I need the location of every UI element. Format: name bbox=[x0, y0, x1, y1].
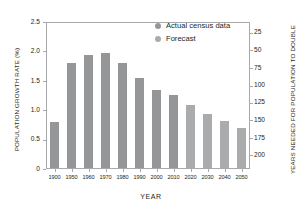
y-tick-right bbox=[250, 33, 253, 34]
y-tick-label-right: 25 bbox=[254, 29, 280, 36]
axis-frame-right bbox=[249, 22, 250, 169]
bar-2030 bbox=[203, 114, 213, 168]
y-tick-left bbox=[43, 169, 46, 170]
legend-label: Forecast bbox=[166, 35, 196, 43]
y-tick-left bbox=[43, 110, 46, 111]
y-tick-label-left: 2.0 bbox=[14, 48, 40, 55]
y-tick-label-left: 1.5 bbox=[14, 78, 40, 85]
bar-1960 bbox=[84, 55, 94, 168]
y-tick-label-right: 100 bbox=[254, 82, 280, 89]
bar-2040 bbox=[220, 121, 230, 168]
x-tick bbox=[72, 169, 73, 172]
y-tick-left bbox=[43, 140, 46, 141]
y-tick-label-left: 0.5 bbox=[14, 136, 40, 143]
y-tick-left bbox=[43, 51, 46, 52]
legend-item-forecast: Forecast bbox=[155, 33, 230, 44]
y-tick-right bbox=[250, 138, 253, 139]
y-tick-label-right: 75 bbox=[254, 65, 280, 72]
y-tick-right bbox=[250, 155, 253, 156]
legend-swatch-icon bbox=[155, 23, 161, 29]
x-tick bbox=[55, 169, 56, 172]
y-tick-label-right: 125 bbox=[254, 99, 280, 106]
legend-item-actual: Actual census data bbox=[155, 20, 230, 31]
legend-label: Actual census data bbox=[166, 22, 230, 30]
y-tick-right bbox=[250, 86, 253, 87]
y-tick-label-left: 0 bbox=[14, 166, 40, 173]
x-tick bbox=[174, 169, 175, 172]
y-axis-right-title: YEARS NEEDED FOR POPULATION TO DOUBLE bbox=[289, 20, 296, 180]
y-tick-label-right: 50 bbox=[254, 47, 280, 54]
y-tick-right bbox=[250, 103, 253, 104]
x-tick bbox=[242, 169, 243, 172]
y-tick-label-left: 1.0 bbox=[14, 107, 40, 114]
y-tick-label-right: 175 bbox=[254, 135, 280, 142]
bar-2020 bbox=[186, 105, 196, 169]
y-tick-label-right: 150 bbox=[254, 117, 280, 124]
x-tick bbox=[106, 169, 107, 172]
bar-1900 bbox=[50, 122, 60, 168]
axis-frame-left bbox=[46, 22, 47, 169]
x-tick bbox=[191, 169, 192, 172]
bar-1970 bbox=[101, 53, 111, 168]
x-tick bbox=[225, 169, 226, 172]
y-tick-right bbox=[250, 50, 253, 51]
y-tick-label-right: 200 bbox=[254, 152, 280, 159]
bar-1950 bbox=[67, 63, 77, 168]
x-axis-title: YEAR bbox=[0, 193, 302, 200]
bar-1990 bbox=[135, 78, 145, 168]
x-tick bbox=[140, 169, 141, 172]
y-tick-label-left: 2.5 bbox=[14, 19, 40, 26]
y-tick-left bbox=[43, 22, 46, 23]
y-tick-right bbox=[250, 68, 253, 69]
x-tick bbox=[89, 169, 90, 172]
bar-2000 bbox=[152, 90, 162, 168]
y-tick-left bbox=[43, 81, 46, 82]
legend-swatch-icon bbox=[155, 36, 161, 42]
bar-2010 bbox=[169, 95, 179, 169]
axis-frame-bottom bbox=[46, 168, 250, 169]
x-tick bbox=[157, 169, 158, 172]
chart-legend: Actual census dataForecast bbox=[155, 20, 230, 46]
x-tick bbox=[208, 169, 209, 172]
x-tick-label-2050: 2050 bbox=[231, 175, 253, 181]
y-tick-right bbox=[250, 120, 253, 121]
population-growth-chart: POPULATION GROWTH RATE (%) YEARS NEEDED … bbox=[0, 0, 302, 213]
bar-1980 bbox=[118, 63, 128, 168]
bar-2050 bbox=[237, 128, 247, 168]
x-tick bbox=[123, 169, 124, 172]
